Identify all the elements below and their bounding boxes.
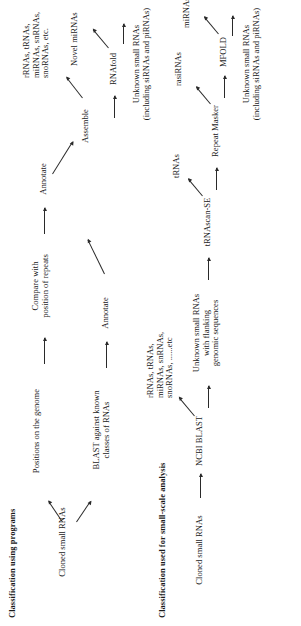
arrow-compare-to-annotate	[44, 208, 45, 234]
node-cloned-small-rnas: Cloned small RNAs	[58, 494, 68, 590]
panel-title-small-scale: Classification used for small-scale anal…	[158, 463, 167, 618]
node-trnascan-se: tRNAscan-SE	[203, 190, 213, 254]
arrow-blast-to-annotate	[106, 342, 107, 368]
arrow-assemble-to-rna-classes	[66, 77, 83, 98]
arrow-mfold-to-mirnas	[204, 17, 219, 34]
node-assemble: Assemble	[81, 100, 91, 152]
node-unknown-small-rnas-with-flanking: Unknown small RNAswith flankinggenomic s…	[192, 284, 221, 382]
node-mirnas: miRNAs	[182, 0, 192, 28]
node-rasirnas: rasiRNAs	[174, 36, 184, 86]
arrow-ncbi-blast-to-unknown-flanking	[208, 386, 209, 408]
arrow-cloned-to-ncbi-blast	[200, 474, 201, 498]
node-rna-classes-list-small-scale: rRNAs, tRNAs,miRNAs, snRNAs,snoRNAs, ...…	[146, 314, 175, 398]
node-cloned-small-rnas-small-scale: Cloned small RNAs	[195, 502, 205, 598]
node-rnafold: RNAfold	[109, 46, 119, 92]
node-annotate-blast-branch: Annotate	[101, 288, 111, 338]
arrow-cloned-to-blast	[76, 501, 91, 522]
arrow-repeat-masker-to-mfold	[224, 76, 225, 98]
arrow-annotate-blast-to-assemble	[87, 240, 105, 275]
arrow-repeat-masker-to-rasirnas	[196, 87, 211, 104]
node-mfold: MFOLD	[219, 30, 229, 74]
arrow-positions-to-compare	[44, 338, 45, 364]
panel-classification-small-scale: Classification used for small-scale anal…	[150, 0, 301, 626]
node-novel-mirnas: Novel miRNAs	[70, 0, 80, 66]
node-repeat-masker: Repeat Masker	[211, 96, 221, 166]
arrow-rnafold-to-unknown	[123, 24, 124, 44]
panel-classification-using-programs: Classification using programs Cloned sma…	[0, 0, 150, 626]
figure-canvas: Classification using programs Cloned sma…	[0, 0, 301, 626]
arrow-ncbi-blast-to-rna-classes	[179, 397, 195, 416]
arrow-flanking-to-trnascan	[208, 258, 209, 280]
arrow-trnascan-to-trnas	[188, 179, 203, 196]
node-rna-classes-list: rRNAs, tRNAs,miRNAs, snRNAs,snoRNAs, etc…	[22, 0, 51, 78]
node-annotate-genome-branch: Annotate	[39, 154, 49, 204]
arrow-rnafold-to-novel-mirnas	[93, 29, 109, 48]
panel-title-using-programs: Classification using programs	[8, 509, 17, 618]
node-unknown-small-rnas-programs: Unknown small RNAs(including siRNAs and …	[132, 0, 151, 128]
arrow-mfold-to-unknown	[232, 16, 233, 36]
node-trnas: tRNAs	[172, 140, 182, 178]
arrow-trnascan-to-repeat-masker	[216, 168, 217, 190]
node-unknown-small-rnas-small-scale: Unknown small RNAs(including siRNAs and …	[242, 0, 261, 128]
arrow-annotate-genome-to-assemble	[52, 142, 73, 175]
node-blast-against-known-classes: BLAST against knownclasses of RNAs	[92, 374, 111, 486]
node-compare-with-position-of-repeats: Compare withposition of repeats	[31, 238, 50, 334]
node-ncbi-blast: NCBI BLAST	[195, 410, 205, 472]
node-positions-on-the-genome: Positions on the genome	[32, 370, 42, 492]
arrow-to-rnafold	[114, 96, 115, 118]
